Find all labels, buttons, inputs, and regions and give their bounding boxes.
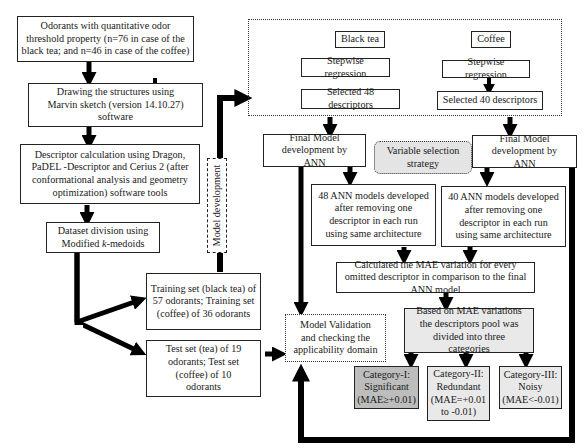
- model-development-label: Model development: [207, 158, 227, 253]
- selected-40-descriptors-box: Selected 40 descriptors: [437, 91, 543, 110]
- black-tea-box: Black tea: [335, 31, 385, 48]
- category-redundant-box: Category-II: Redundant (MAE=+0.01 to -0.…: [427, 366, 490, 421]
- selected-48-descriptors-box: Selected 48 descriptors: [301, 89, 400, 109]
- ann-models-coffee-box: 40 ANN models developed after removing o…: [441, 186, 566, 247]
- category-noisy-box: Category-III: Noisy (MAE<-0.01): [499, 366, 562, 409]
- categories-intro-box: Based on MAE variations the descriptors …: [404, 308, 534, 353]
- test-set-box: Test set (tea) of 19 odorants; Test set …: [146, 340, 261, 397]
- model-validation-box: Model Validation and checking the applic…: [285, 314, 386, 362]
- variable-selection-strategy-box: Variable selection strategy: [374, 141, 472, 174]
- mae-variation-box: Calculated the MAE variation for every o…: [336, 262, 535, 293]
- descriptor-calculation-text: Descriptor calculation using Dragon, PaD…: [24, 149, 196, 199]
- training-set-box: Training set (black tea) of 57 odorants;…: [146, 273, 261, 330]
- dataset-division-box: Dataset division using Modified k-medoid…: [46, 222, 160, 253]
- odorants-box: Odorants with quantitative odor threshol…: [17, 16, 194, 62]
- odorants-text: Odorants with quantitative odor threshol…: [21, 20, 190, 58]
- coffee-box: Coffee: [471, 31, 511, 48]
- stepwise-regression-tea-box: Stepwise regression: [301, 58, 390, 77]
- training-set-text: Training set (black tea) of 57 odorants;…: [150, 283, 257, 321]
- dataset-division-text: Dataset division using Modified k-medoid…: [58, 225, 149, 250]
- stepwise-regression-coffee-box: Stepwise regression: [442, 60, 530, 78]
- descriptor-calculation-box: Descriptor calculation using Dragon, PaD…: [20, 144, 200, 204]
- category-significant-box: Category-I: Significant (MAE≥+0.01): [354, 366, 419, 409]
- test-set-text: Test set (tea) of 19 odorants; Test set …: [157, 343, 250, 393]
- final-model-coffee-box: Final Model development by ANN: [472, 135, 577, 168]
- drawing-structures-text: Drawing the structures using Marvin sket…: [43, 86, 188, 124]
- drawing-structures-box: Drawing the structures using Marvin sket…: [28, 83, 203, 127]
- final-model-tea-box: Final Model development by ANN: [263, 134, 366, 167]
- ann-models-tea-box: 48 ANN models developed after removing o…: [311, 184, 436, 246]
